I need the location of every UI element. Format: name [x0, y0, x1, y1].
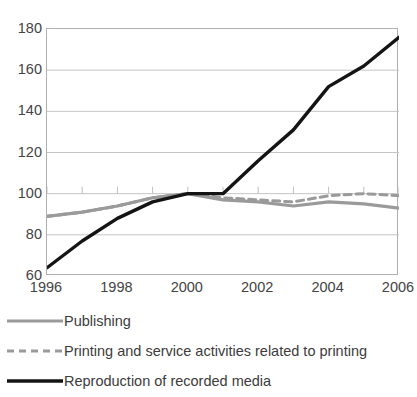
y-axis-tick-label: 140 — [2, 102, 42, 118]
x-axis-tick-label: 2000 — [171, 279, 203, 295]
dashed-gray-line-icon — [6, 344, 64, 358]
chart-legend: PublishingPrinting and service activitie… — [6, 306, 417, 396]
plot-area — [46, 28, 398, 275]
x-axis-tick-label: 2004 — [311, 279, 343, 295]
line-chart: 6080100120140160180 19961998200020022004… — [0, 0, 417, 397]
chart-title — [0, 0, 417, 3]
legend-label: Printing and service activities related … — [64, 344, 367, 359]
legend-item[interactable]: Publishing — [6, 306, 417, 336]
solid-gray-line-icon — [6, 314, 64, 328]
legend-item[interactable]: Reproduction of recorded media — [6, 366, 417, 396]
legend-item[interactable]: Printing and service activities related … — [6, 336, 417, 366]
series-line-1 — [47, 194, 399, 217]
y-axis-tick-label: 120 — [2, 144, 42, 160]
series-line-2 — [47, 194, 399, 217]
y-axis-tick-label: 160 — [2, 61, 42, 77]
x-axis-tick-label: 1998 — [100, 279, 132, 295]
y-axis-labels: 6080100120140160180 — [0, 0, 42, 300]
x-axis-tick-label: 2002 — [241, 279, 273, 295]
x-axis-tick-label: 1996 — [30, 279, 62, 295]
legend-label: Reproduction of recorded media — [64, 374, 271, 389]
y-axis-tick-label: 80 — [2, 226, 42, 242]
legend-label: Publishing — [64, 314, 131, 329]
solid-black-line-icon — [6, 374, 64, 388]
plot-svg — [47, 29, 399, 276]
x-axis-labels: 199619982000200220042006 — [0, 279, 417, 301]
y-axis-tick-label: 180 — [2, 20, 42, 36]
y-axis-tick-label: 100 — [2, 185, 42, 201]
x-axis-tick-label: 2006 — [382, 279, 414, 295]
